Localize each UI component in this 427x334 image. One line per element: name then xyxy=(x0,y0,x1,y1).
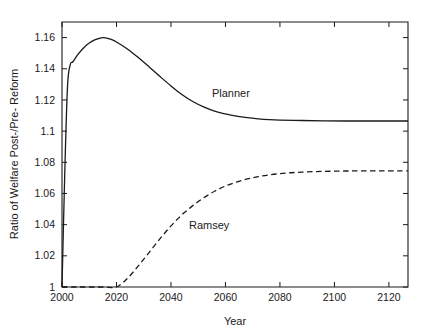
y-tick-label: 1.08 xyxy=(35,156,56,168)
x-tick-label: 2100 xyxy=(323,291,347,303)
y-tick-label: 1.04 xyxy=(35,218,56,230)
x-tick-label: 2120 xyxy=(377,291,401,303)
y-tick-label: 1.16 xyxy=(35,31,56,43)
y-tick-label: 1.1 xyxy=(40,125,55,137)
y-tick-label: 1.12 xyxy=(35,94,56,106)
y-axis-title: Ratio of Welfare Post-/Pre- Reform xyxy=(8,69,20,239)
x-tick-label: 2060 xyxy=(214,291,238,303)
chart-background xyxy=(0,0,427,334)
series-annotation-ramsey: Ramsey xyxy=(189,219,230,231)
x-tick-label: 2020 xyxy=(105,291,129,303)
x-tick-label: 2040 xyxy=(159,291,183,303)
x-tick-label: 2000 xyxy=(50,291,74,303)
y-tick-label: 1 xyxy=(49,281,55,293)
welfare-ratio-chart: 2000202020402060208021002120 11.021.041.… xyxy=(0,0,427,334)
y-tick-label: 1.14 xyxy=(35,62,56,74)
y-axis-tick-labels: 11.021.041.061.081.11.121.141.16 xyxy=(35,31,56,292)
x-tick-label: 2080 xyxy=(268,291,292,303)
x-axis-title: Year xyxy=(224,315,247,327)
chart-canvas: 2000202020402060208021002120 11.021.041.… xyxy=(0,0,427,334)
y-tick-label: 1.06 xyxy=(35,187,56,199)
series-annotation-planner: Planner xyxy=(212,87,250,99)
y-tick-label: 1.02 xyxy=(35,249,56,261)
